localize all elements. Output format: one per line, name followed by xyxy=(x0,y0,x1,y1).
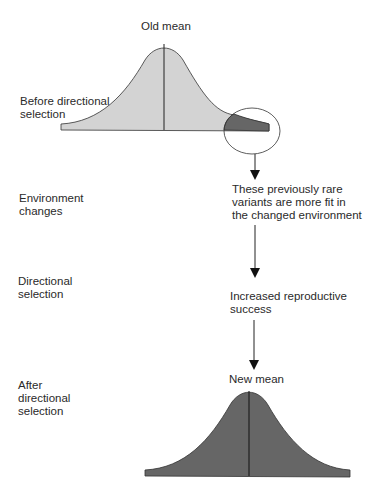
rare-variants-text: These previously rare variants are more … xyxy=(232,183,362,222)
new-distribution-curve xyxy=(145,392,350,477)
environment-changes-label: Environment changes xyxy=(19,192,84,218)
old-mean-label: Old mean xyxy=(141,20,191,33)
arrow-3-head xyxy=(249,360,259,370)
arrow-2-head xyxy=(250,268,260,278)
arrow-1-head xyxy=(250,170,260,180)
after-selection-label: After directional selection xyxy=(18,379,70,418)
directional-selection-label: Directional selection xyxy=(18,275,72,301)
before-selection-label: Before directional selection xyxy=(20,95,110,121)
reproductive-success-text: Increased reproductive success xyxy=(230,290,347,316)
new-mean-label: New mean xyxy=(229,373,284,386)
